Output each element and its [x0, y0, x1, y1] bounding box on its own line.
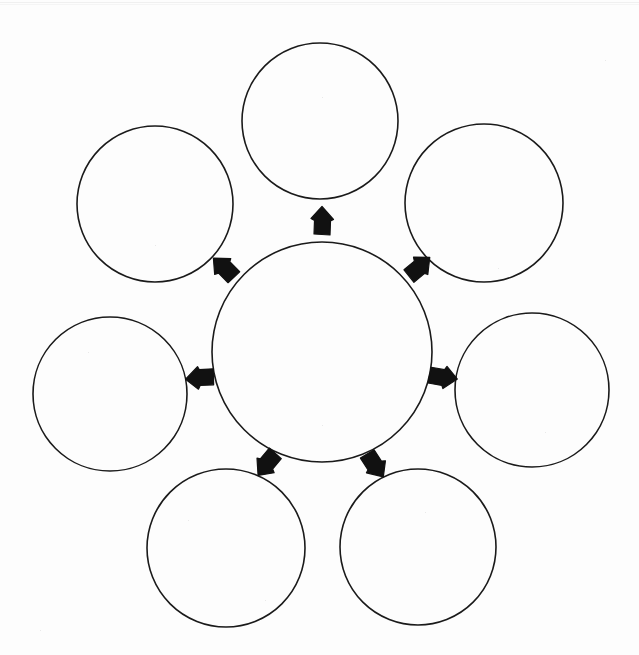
arrow-to-right-head-icon	[428, 364, 459, 390]
arrow-to-upper-left-head-icon	[206, 250, 242, 286]
cycle-diagram	[0, 0, 639, 655]
satellite-circle-group	[33, 43, 609, 627]
arrow-group	[185, 207, 459, 484]
arrow-to-upper-left[interactable]	[206, 250, 242, 286]
arrow-to-lower-right-head-icon	[358, 447, 393, 483]
circle-upper-left[interactable]	[77, 126, 233, 282]
circle-right[interactable]	[455, 313, 609, 467]
arrow-to-left[interactable]	[185, 365, 215, 390]
arrow-to-upper-right-head-icon	[401, 249, 437, 285]
arrow-to-right[interactable]	[428, 364, 459, 390]
arrow-to-lower-left-head-icon	[249, 446, 284, 482]
diagram-canvas	[0, 0, 639, 655]
circle-lower-left[interactable]	[147, 469, 305, 627]
center-circle-group	[212, 242, 432, 462]
circle-top[interactable]	[242, 43, 398, 199]
circle-lower-right[interactable]	[340, 469, 496, 625]
arrow-to-upper-right[interactable]	[401, 249, 437, 285]
arrow-to-lower-left[interactable]	[249, 446, 284, 482]
arrow-to-left-head-icon	[185, 365, 215, 390]
circle-left[interactable]	[33, 317, 187, 471]
arrow-to-lower-right[interactable]	[358, 447, 393, 483]
center-circle[interactable]	[212, 242, 432, 462]
arrow-to-top-head-icon	[311, 207, 334, 236]
arrow-to-top[interactable]	[311, 207, 334, 236]
